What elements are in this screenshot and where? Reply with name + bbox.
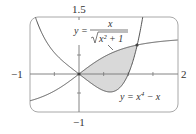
svg-text:y = x4 − x: y = x4 − x [119,90,161,102]
equation-label-1: y = x x² + 1 [72,18,130,45]
origin-point [77,72,80,75]
svg-text:x² + 1: x² + 1 [98,33,123,44]
area-between-curves-chart: 1.5 −1 −1 2 y = x x² + 1 y = x4 − x [0,0,196,134]
y-max-label: 1.5 [72,3,86,15]
svg-text:x: x [107,18,113,29]
y-min-label: −1 [73,116,85,128]
equation-label-2: y = x4 − x [119,90,161,102]
intersection-point [135,43,138,46]
x-min-label: −1 [11,68,23,80]
x-max-label: 2 [181,68,187,80]
svg-text:y =: y = [73,25,88,36]
